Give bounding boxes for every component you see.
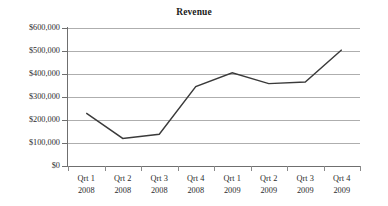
revenue-line-chart: Revenue $600,000$500,000$400,000$300,000… bbox=[0, 0, 388, 206]
series-plot bbox=[0, 0, 388, 206]
revenue-series-line bbox=[86, 50, 342, 139]
